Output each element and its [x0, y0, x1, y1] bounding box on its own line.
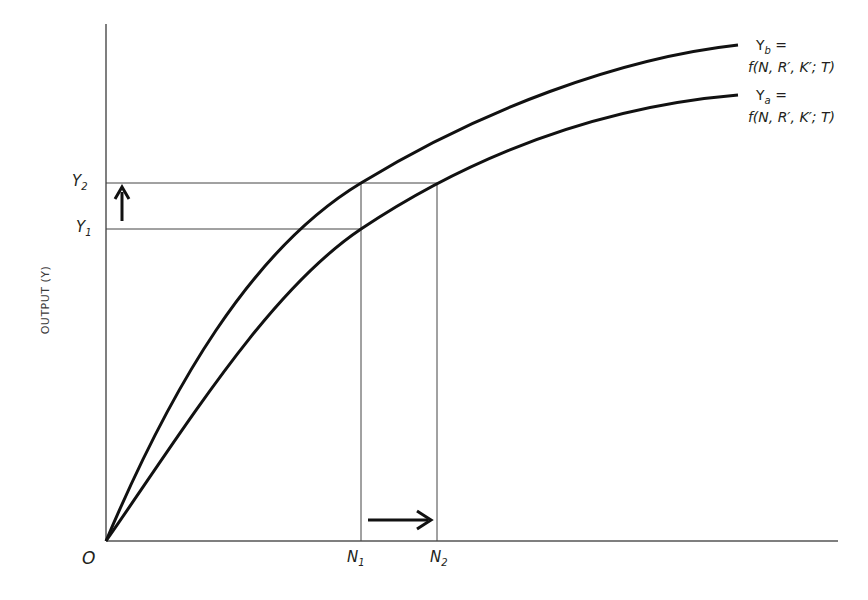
n2-tick-label: N2 — [430, 548, 448, 566]
legend-yb-func: f(N, R′, K′; T) — [705, 56, 835, 78]
curve-yb — [106, 45, 738, 541]
chart-canvas — [0, 0, 868, 600]
n2-main: N — [430, 548, 441, 566]
right-arrow-icon — [368, 511, 431, 529]
yb-main: Y — [756, 37, 765, 53]
y1-tick-label: Y1 — [76, 218, 92, 236]
up-arrow-icon — [115, 187, 129, 221]
origin-label: O — [82, 548, 95, 568]
n1-main: N — [347, 548, 358, 566]
ya-main: Y — [756, 87, 765, 103]
yb-sub: b — [765, 45, 771, 56]
y2-main: Y — [72, 172, 81, 190]
y1-main: Y — [76, 218, 85, 236]
legend-yb: Yb = — [742, 34, 842, 58]
y1-sub: 1 — [85, 227, 91, 238]
n1-tick-label: N1 — [347, 548, 365, 566]
yb-eq: = — [771, 37, 787, 53]
y-axis-label: OUTPUT (Y) — [39, 266, 52, 335]
ya-eq: = — [771, 87, 787, 103]
ya-sub: a — [765, 95, 771, 106]
y2-sub: 2 — [81, 181, 87, 192]
curve-ya — [106, 95, 738, 541]
legend-ya: Ya = — [742, 84, 842, 108]
y2-tick-label: Y2 — [72, 172, 88, 190]
n1-sub: 1 — [358, 557, 364, 568]
n2-sub: 2 — [441, 557, 447, 568]
legend-ya-func: f(N, R′, K′; T) — [705, 106, 835, 128]
